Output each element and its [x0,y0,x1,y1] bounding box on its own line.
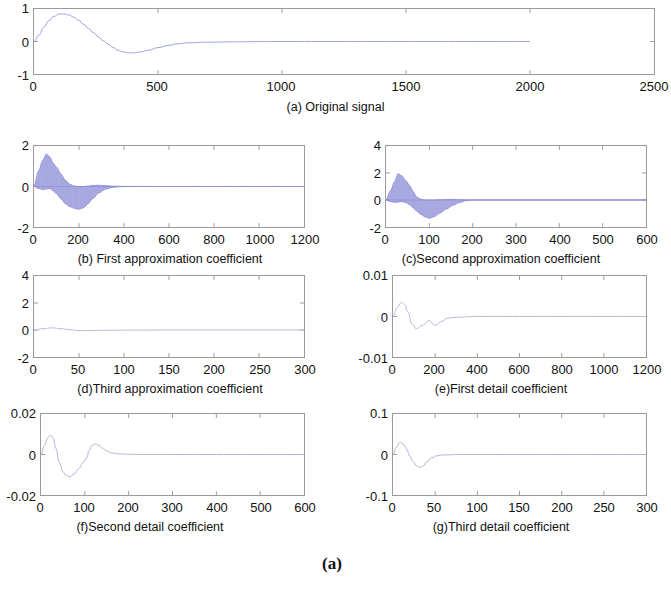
xtick-c-6: 600 [636,233,658,246]
xtick-g-3: 150 [508,501,530,514]
xtick-d-3: 150 [158,363,180,376]
xtick-g-0: 0 [388,501,395,514]
ytick-f-0: 0.02 [0,407,36,420]
xtick-b-4: 800 [203,233,225,246]
xtick-e-0: 0 [388,363,395,376]
plot-svg-b [34,146,304,227]
ytick-f-1: 0 [0,448,36,461]
ytick-d-1: 2 [4,296,29,309]
ytick-b-0: 2 [4,139,29,152]
ytick-d-3: -2 [4,352,29,365]
figure-label: (a) [322,554,342,574]
xtick-e-6: 1200 [633,363,662,376]
ytick-g-1: 0 [352,448,388,461]
plot-area-d [33,275,305,358]
xtick-a-0: 0 [29,80,36,93]
ytick-c-3: -2 [356,222,381,235]
xtick-e-5: 1000 [590,363,619,376]
plot-svg-c [386,146,646,227]
ytick-b-2: -2 [4,222,29,235]
xtick-a-4: 2000 [516,80,545,93]
caption-f: (f)Second detail coefficient [0,521,300,534]
caption-e: (e)First detail coefficient [331,383,671,396]
xtick-g-6: 300 [636,501,658,514]
caption-c: (c)Second approximation coefficient [331,253,671,266]
ytick-b-1: 0 [4,180,29,193]
xtick-c-3: 300 [505,233,527,246]
plot-area-a [33,8,655,75]
xtick-a-2: 1000 [267,80,296,93]
xtick-b-1: 200 [67,233,89,246]
plot-area-f [40,413,305,496]
ytick-a-2: -1 [2,69,29,82]
plot-svg-f [41,414,304,495]
xtick-f-2: 200 [117,501,139,514]
plot-area-c [385,145,647,228]
xtick-e-3: 600 [508,363,530,376]
xtick-g-1: 50 [427,501,441,514]
plot-svg-d [34,276,304,357]
xtick-a-3: 1500 [392,80,421,93]
caption-g: (g)Third detail coefficient [331,521,671,534]
caption-b: (b) First approximation coefficient [0,253,340,266]
xtick-b-2: 400 [113,233,135,246]
ytick-g-2: -0.1 [352,490,388,503]
xtick-b-3: 600 [158,233,180,246]
xtick-f-3: 300 [161,501,183,514]
xtick-c-2: 200 [461,233,483,246]
xtick-c-4: 400 [549,233,571,246]
xtick-g-4: 200 [551,501,573,514]
xtick-d-4: 200 [203,363,225,376]
ytick-a-0: 1 [2,2,29,15]
xtick-f-1: 100 [73,501,95,514]
xtick-f-5: 500 [250,501,272,514]
xtick-a-1: 500 [146,80,168,93]
ytick-g-0: 0.1 [352,407,388,420]
xtick-d-1: 50 [71,363,85,376]
ytick-f-2: -0.02 [0,490,36,503]
xtick-b-5: 1000 [246,233,275,246]
ytick-e-0: 0.01 [346,269,388,282]
xtick-d-5: 250 [249,363,271,376]
xtick-c-5: 500 [592,233,614,246]
plot-svg-e [393,276,646,357]
plot-area-g [392,413,647,496]
xtick-g-5: 250 [593,501,615,514]
caption-a: (a) Original signal [0,101,671,114]
plot-svg-g [393,414,646,495]
wavelet-decomposition-figure: 1 0 -1 0 500 1000 1500 2000 2500 (a) Ori… [0,0,671,589]
xtick-d-0: 0 [29,363,36,376]
xtick-d-6: 300 [294,363,316,376]
ytick-e-1: 0 [346,310,388,323]
xtick-f-0: 0 [36,501,43,514]
xtick-f-6: 600 [294,501,316,514]
plot-area-b [33,145,305,228]
plot-area-e [392,275,647,358]
ytick-d-0: 4 [4,269,29,282]
ytick-c-1: 2 [356,166,381,179]
xtick-d-2: 100 [113,363,135,376]
ytick-e-2: -0.01 [346,352,388,365]
xtick-b-0: 0 [29,233,36,246]
xtick-e-1: 200 [423,363,445,376]
xtick-a-5: 2500 [640,80,669,93]
caption-d: (d)Third approximation coefficient [0,383,340,396]
xtick-e-2: 400 [466,363,488,376]
xtick-g-2: 100 [466,501,488,514]
plot-svg-a [34,9,654,74]
xtick-c-1: 100 [418,233,440,246]
xtick-b-6: 1200 [291,233,320,246]
xtick-c-0: 0 [381,233,388,246]
ytick-c-0: 4 [356,139,381,152]
xtick-f-4: 400 [206,501,228,514]
ytick-c-2: 0 [356,194,381,207]
xtick-e-4: 800 [551,363,573,376]
ytick-d-2: 0 [4,324,29,337]
ytick-a-1: 0 [2,35,29,48]
